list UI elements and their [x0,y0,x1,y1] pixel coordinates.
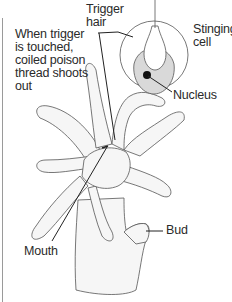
mouth-label: Mouth [24,245,58,258]
nucleus-label: Nucleus [173,89,217,102]
hydra-body [32,63,184,294]
trigger-hair-label: Trigger hair [86,3,126,29]
stinging-cell-label: Stinging cell [193,23,232,49]
bud-label: Bud [166,224,188,237]
trigger-action-label: When trigger is touched, coiled poison t… [15,28,95,93]
